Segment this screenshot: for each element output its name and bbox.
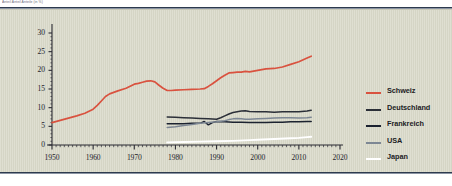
x-axis-tick-label: 2010: [284, 153, 314, 162]
y-axis-tick-label: 20: [29, 65, 45, 74]
legend-item-schweiz: Schweiz: [366, 85, 452, 102]
legend-swatch-icon: [366, 125, 381, 127]
legend-swatch-icon: [366, 92, 381, 94]
y-axis-tick-label: 0: [29, 140, 45, 149]
legend-swatch-icon: [366, 142, 381, 144]
legend-item-usa: USA: [366, 135, 452, 152]
x-axis-tick-label: 1950: [37, 153, 67, 162]
x-axis-tick-label: 1990: [202, 153, 232, 162]
chart-page: Anteil Anteil Anteile (in %) 05101520253…: [0, 0, 452, 186]
legend-label: USA: [387, 136, 402, 145]
x-axis-tick-label: 1960: [78, 153, 108, 162]
legend-label: Frankreich: [387, 119, 424, 128]
legend-label: Schweiz: [387, 86, 415, 95]
page-caption: Anteil Anteil Anteile (in %): [2, 0, 182, 5]
y-axis-tick-label: 5: [29, 121, 45, 130]
legend-swatch-icon: [366, 158, 381, 160]
y-axis-tick-label: 15: [29, 84, 45, 93]
chart-panel: 0510152025301950196019701980199020002010…: [0, 9, 452, 172]
legend-swatch-icon: [366, 109, 381, 111]
bottom-rule-shadow: [0, 173, 452, 174]
legend-item-japan: Japan: [366, 151, 452, 168]
legend-item-frankreich: Frankreich: [366, 118, 452, 135]
legend-label: Deutschland: [387, 103, 430, 112]
legend-label: Japan: [387, 152, 408, 161]
x-axis-tick-label: 1970: [119, 153, 149, 162]
x-axis-tick-label: 2020: [325, 153, 355, 162]
y-axis-tick-label: 10: [29, 103, 45, 112]
legend-item-deutschland: Deutschland: [366, 102, 452, 119]
x-axis-tick-label: 2000: [243, 153, 273, 162]
y-axis-tick-label: 25: [29, 47, 45, 56]
x-axis-tick-label: 1980: [160, 153, 190, 162]
y-axis-tick-label: 30: [29, 28, 45, 37]
chart-legend: Schweiz Deutschland Frankreich USA Japan: [366, 85, 452, 168]
